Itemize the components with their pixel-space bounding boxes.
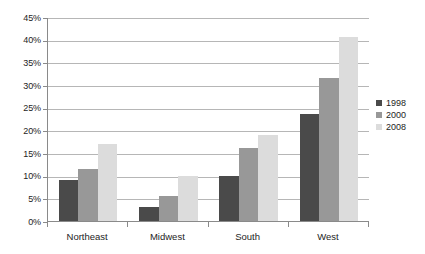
bar-midwest-2008: [178, 176, 198, 221]
x-axis-tick-label-northeast: Northeast: [42, 231, 132, 242]
x-tick-mark: [127, 222, 128, 227]
gridline: [48, 18, 369, 19]
bar-midwest-1998: [139, 207, 159, 221]
y-axis-tick-label: 25%: [7, 104, 41, 113]
plot-area: [47, 18, 368, 222]
x-axis-tick-label-south: South: [203, 231, 293, 242]
bar-south-1998: [219, 176, 239, 221]
bar-northeast-2000: [78, 169, 98, 221]
legend-label: 2008: [386, 123, 406, 132]
legend-swatch-icon: [376, 124, 382, 130]
y-axis-tick-label: 15%: [7, 150, 41, 159]
x-axis-tick-label-west: West: [283, 231, 373, 242]
bar-south-2008: [258, 135, 278, 221]
legend-item-1998[interactable]: 1998: [376, 97, 424, 109]
x-tick-mark: [368, 222, 369, 227]
bar-northeast-2008: [98, 144, 118, 221]
y-axis-tick-label: 5%: [7, 195, 41, 204]
legend-label: 1998: [386, 99, 406, 108]
bar-south-2000: [239, 148, 259, 221]
gridline: [48, 41, 369, 42]
y-axis-tick-label: 45%: [7, 14, 41, 23]
y-axis-tick-label: 10%: [7, 172, 41, 181]
y-axis-tick-label: 20%: [7, 127, 41, 136]
legend-item-2000[interactable]: 2000: [376, 109, 424, 121]
gridline: [48, 221, 369, 222]
x-axis-tick-label-midwest: Midwest: [122, 231, 212, 242]
bar-northeast-1998: [59, 180, 79, 221]
bar-midwest-2000: [159, 196, 179, 221]
bar-west-1998: [300, 114, 320, 221]
bar-chart: 0%5%10%15%20%25%30%35%40%45% NortheastMi…: [0, 0, 425, 254]
y-axis-tick-label: 35%: [7, 59, 41, 68]
x-tick-mark: [47, 222, 48, 227]
x-tick-mark: [208, 222, 209, 227]
legend-swatch-icon: [376, 112, 382, 118]
chart-legend: 199820002008: [376, 97, 424, 133]
y-axis-tick-label: 0%: [7, 218, 41, 227]
y-axis-tick-label: 40%: [7, 36, 41, 45]
legend-label: 2000: [386, 111, 406, 120]
legend-swatch-icon: [376, 100, 382, 106]
bar-west-2000: [319, 78, 339, 221]
gridline: [48, 63, 369, 64]
bar-west-2008: [339, 37, 359, 221]
x-tick-mark: [288, 222, 289, 227]
legend-item-2008[interactable]: 2008: [376, 121, 424, 133]
y-axis-tick-label: 30%: [7, 82, 41, 91]
